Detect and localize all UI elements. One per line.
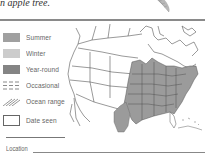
location-entry-line[interactable] [33, 152, 205, 153]
legend-label: Date seen [26, 116, 57, 125]
legend-label: Winter [26, 49, 45, 58]
date-seen-checkbox[interactable] [3, 115, 20, 126]
winter-swatch-icon [3, 49, 20, 58]
top-divider [0, 19, 205, 21]
legend-label: Summer [26, 33, 51, 42]
legend-item-ocean-range: Ocean range [3, 93, 65, 109]
date-entry-line[interactable] [6, 137, 65, 138]
legend-item-summer: Summer [3, 29, 65, 45]
legend-item-occasional: Occasional [3, 77, 65, 93]
legend-item-year-round: Year-round [3, 61, 65, 77]
summer-swatch-icon [3, 33, 20, 42]
occasional-pattern-icon [3, 81, 20, 90]
feather-illustration-icon [145, 0, 205, 14]
legend-item-date-seen: Date seen [3, 112, 65, 128]
legend-label: Occasional [26, 81, 59, 90]
map-legend: Summer Winter Year-round Occasional Ocea… [3, 29, 65, 128]
range-map [62, 22, 206, 134]
legend-label: Ocean range [26, 97, 65, 106]
ocean-range-hatch-icon [3, 97, 20, 106]
location-label: Location [6, 145, 28, 152]
legend-item-winter: Winter [3, 45, 65, 61]
year-round-swatch-icon [3, 65, 20, 74]
caption-text: n apple tree. [0, 0, 50, 8]
legend-label: Year-round [26, 65, 59, 74]
